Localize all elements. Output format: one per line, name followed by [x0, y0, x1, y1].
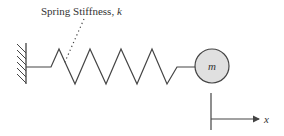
spring-mass-diagram: Spring Stiffness, k m x: [0, 0, 284, 136]
fixed-wall: [17, 43, 26, 84]
label-leader-line: [64, 19, 84, 64]
spring: [26, 49, 196, 84]
x-axis-label: x: [263, 113, 269, 125]
mass-label: m: [208, 60, 216, 72]
diagram-canvas: Spring Stiffness, k m x: [0, 0, 284, 136]
spring-stiffness-label: Spring Stiffness, k: [41, 5, 123, 17]
x-axis: [211, 93, 259, 130]
